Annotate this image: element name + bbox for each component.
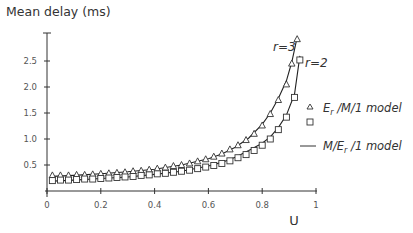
square-marker (275, 127, 281, 133)
square-marker (122, 174, 128, 180)
square-marker (57, 177, 63, 183)
legend-triangle-icon (307, 104, 313, 109)
square-marker (170, 169, 176, 175)
curve-label-r3: r=3 (273, 40, 296, 54)
square-marker (227, 158, 233, 164)
square-marker (162, 170, 168, 176)
square-marker (66, 177, 72, 183)
y-tick-label: 1.5 (23, 108, 37, 118)
x-tick-label: 0.2 (94, 200, 108, 210)
square-marker (235, 155, 241, 161)
square-marker (187, 167, 193, 173)
square-marker (267, 136, 273, 142)
square-marker (146, 172, 152, 178)
legend-square-icon (307, 119, 313, 125)
triangle-marker (289, 60, 295, 66)
square-marker (297, 57, 303, 63)
y-tick-label: 0.5 (23, 160, 37, 170)
square-marker (211, 163, 217, 169)
model-curve-line (52, 37, 297, 176)
square-marker (251, 147, 257, 153)
square-marker (283, 114, 289, 120)
x-tick-label: 0 (44, 200, 49, 210)
square-marker (138, 172, 144, 178)
x-tick-label: 1 (313, 200, 318, 210)
square-marker (219, 160, 225, 166)
x-axis-label: U (289, 213, 299, 228)
square-marker (98, 176, 104, 182)
triangle-marker (251, 130, 257, 136)
square-marker (259, 142, 265, 148)
legend-label-er-m-1: Er /M/1 model (323, 101, 402, 117)
legend-label-m-er-1: M/Er /1 model (323, 139, 402, 155)
curve-label-r2: r=2 (305, 56, 328, 70)
x-tick-label: 0.6 (202, 200, 216, 210)
triangle-marker (235, 142, 241, 148)
y-tick-label: 2.5 (23, 56, 37, 66)
y-tick-label: 1.0 (23, 134, 37, 144)
square-marker (74, 177, 80, 183)
triangle-marker (243, 137, 249, 143)
square-marker (82, 176, 88, 182)
square-marker (243, 152, 249, 158)
x-tick-label: 0.4 (148, 200, 162, 210)
square-marker (154, 171, 160, 177)
square-marker (106, 175, 112, 181)
y-tick-label: 2.0 (23, 82, 37, 92)
model-curve-line (52, 56, 300, 181)
square-marker (291, 94, 297, 100)
x-tick-label: 0.8 (255, 200, 269, 210)
square-marker (203, 164, 209, 170)
triangle-marker (267, 111, 273, 117)
plot-area: 0.51.01.52.02.500.20.40.60.81Ur=3r=2Er /… (0, 0, 413, 233)
triangle-marker (275, 97, 281, 103)
triangle-marker (259, 122, 265, 128)
square-marker (130, 173, 136, 179)
square-marker (90, 176, 96, 182)
square-marker (49, 178, 55, 184)
triangle-marker (49, 172, 55, 178)
square-marker (179, 168, 185, 174)
square-marker (114, 174, 120, 180)
square-marker (195, 166, 201, 172)
triangle-marker (283, 81, 289, 87)
